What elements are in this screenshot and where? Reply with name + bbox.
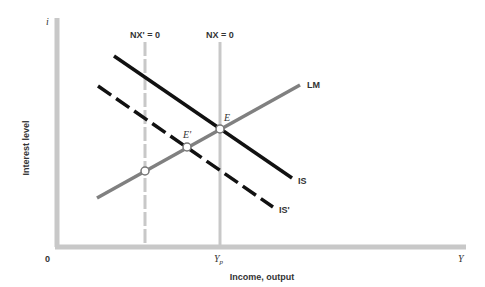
point-e <box>216 125 224 133</box>
point-e-prime <box>183 143 191 151</box>
y-axis-symbol: i <box>46 16 49 27</box>
point-nx-prime-lm <box>141 167 149 175</box>
is-prime-label: IS' <box>279 205 290 215</box>
yp-tick-label: Yp <box>214 253 224 266</box>
lm-curve <box>97 85 300 198</box>
nx-label: NX = 0 <box>206 30 234 40</box>
x-axis-label: Income, output <box>230 272 295 282</box>
y-axis-label: Interest level <box>21 120 31 175</box>
e-label: E <box>223 112 230 123</box>
islm-diagram: i Interest level 0 Y Income, output Yp N… <box>0 0 485 287</box>
nx-prime-label: NX' = 0 <box>130 30 160 40</box>
e-prime-label: E' <box>182 129 192 140</box>
lm-label: LM <box>307 80 320 90</box>
x-axis-symbol: Y <box>458 253 465 264</box>
origin-label: 0 <box>45 254 50 264</box>
is-label: IS <box>298 176 307 186</box>
